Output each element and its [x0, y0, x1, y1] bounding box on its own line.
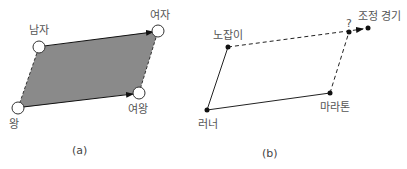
- node-runner: [205, 108, 210, 113]
- node-woman: [152, 25, 164, 37]
- label-king: 왕: [9, 119, 19, 130]
- label-woman: 여자: [150, 10, 170, 21]
- label-unknown: ?: [346, 18, 352, 29]
- node-unknown: [347, 30, 352, 35]
- node-queen: [133, 87, 145, 99]
- diagram-a: [12, 25, 164, 114]
- caption-a: (a): [72, 145, 87, 156]
- label-marathon: 마라톤: [320, 102, 350, 113]
- slacker-rowing-arrow: [228, 29, 363, 47]
- label-slacker: 노잡이: [213, 30, 243, 41]
- caption-b: (b): [262, 148, 278, 159]
- marathon-unknown-edge: [330, 32, 349, 93]
- node-man: [33, 41, 45, 53]
- node-rowing: [366, 26, 371, 31]
- label-rowing: 조정 경기: [358, 11, 402, 22]
- runner-slacker-edge: [207, 47, 228, 110]
- node-slacker: [226, 45, 231, 50]
- node-marathon: [328, 91, 333, 96]
- node-king: [12, 102, 24, 114]
- label-runner: 러너: [198, 119, 218, 130]
- runner-marathon-edge: [207, 93, 330, 110]
- label-man: 남자: [29, 25, 49, 36]
- label-queen: 여왕: [128, 104, 148, 115]
